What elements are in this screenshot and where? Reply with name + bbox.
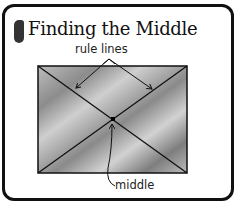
paper-rectangle <box>38 66 187 173</box>
diagram-illustration <box>0 0 235 205</box>
